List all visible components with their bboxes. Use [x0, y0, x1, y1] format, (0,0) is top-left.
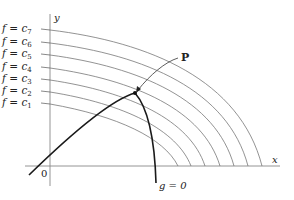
level-curve-c1 [50, 104, 178, 166]
label-c1: f = c1 [2, 96, 32, 110]
constraint-curve [29, 93, 156, 183]
constraint-label: g = 0 [159, 180, 187, 191]
level-curve-c4 [50, 68, 220, 166]
label-leaders [41, 29, 50, 104]
y-axis-label: y [54, 12, 60, 23]
point-p-label: P [181, 51, 189, 64]
label-c7: f = c7 [2, 22, 32, 36]
level-curve-c5 [50, 55, 234, 166]
level-curve-c6 [50, 43, 248, 166]
level-curve-c3 [50, 80, 205, 166]
label-c5: f = c5 [2, 47, 32, 61]
level-curves [50, 30, 262, 166]
x-axis-label: x [272, 154, 278, 165]
origin-label: 0 [41, 168, 47, 179]
level-curve-c2 [50, 92, 191, 166]
